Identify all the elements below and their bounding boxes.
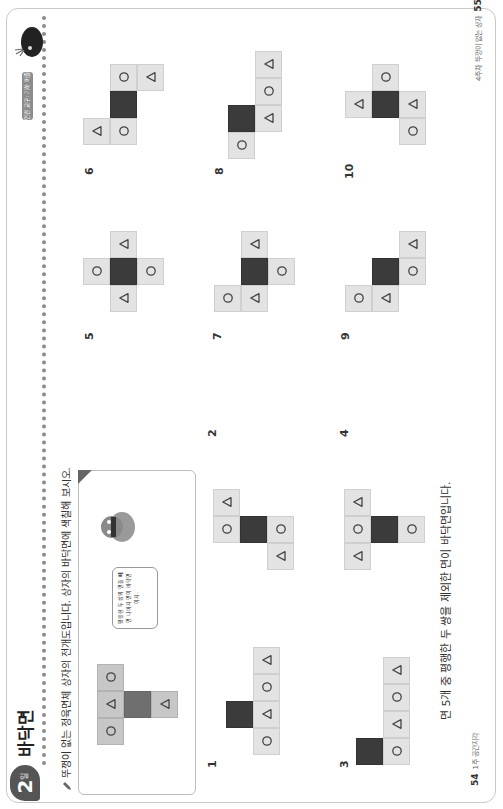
net-face[interactable] [241, 231, 268, 258]
net-face[interactable] [110, 231, 137, 258]
circle-icon [391, 746, 403, 758]
net-face[interactable] [213, 516, 240, 543]
net-face[interactable] [398, 516, 425, 543]
circle-icon [236, 140, 248, 152]
net-face[interactable] [97, 664, 124, 691]
triangle-icon [261, 709, 273, 721]
net-face[interactable] [83, 258, 110, 285]
net-face[interactable] [253, 674, 280, 701]
problem-number: 10 [343, 164, 356, 179]
circle-icon [222, 293, 234, 305]
dogear-corner [78, 470, 92, 484]
problem-number: 9 [339, 332, 352, 340]
circle-icon [221, 524, 233, 536]
speech-bubble: 평행한 두 쌍의 면을 빼면 나머지 면이 바닥면이지. [112, 567, 158, 629]
footer-section: 4주차 뚜껑이 없는 상자 [475, 16, 483, 81]
net-face-bottom[interactable] [356, 738, 383, 765]
problem-number: 6 [83, 167, 96, 175]
triangle-icon [261, 655, 273, 667]
net-face[interactable] [383, 657, 410, 684]
net-face-bottom[interactable] [226, 701, 253, 728]
net-face-bottom[interactable] [240, 516, 267, 543]
net-face[interactable] [214, 285, 241, 312]
net-face-bottom[interactable] [124, 691, 151, 718]
triangle-icon [353, 99, 365, 111]
triangle-icon [91, 126, 103, 138]
net-face[interactable] [151, 691, 178, 718]
footer-section: 1주 공간지각 [472, 733, 480, 770]
triangle-icon [249, 293, 261, 305]
net-face[interactable] [344, 543, 371, 570]
net-face[interactable] [345, 91, 372, 118]
net-face-bottom[interactable] [241, 258, 268, 285]
net-face[interactable] [253, 701, 280, 728]
net-face-bottom[interactable] [371, 516, 398, 543]
triangle-icon [391, 665, 403, 677]
footer-right: 4주차 뚜껑이 없는 상자55 [473, 0, 483, 81]
triangle-icon [380, 293, 392, 305]
triangle-icon [249, 239, 261, 251]
circle-icon [105, 672, 117, 684]
problem-number: 7 [211, 332, 224, 340]
net-face[interactable] [383, 684, 410, 711]
net-face-bottom[interactable] [110, 258, 137, 285]
net-face[interactable] [255, 78, 282, 105]
footer-left: 541주 공간지각 [470, 733, 480, 790]
instruction-text: 뚜껑이 없는 정육면체 상자의 전개도입니다. 상자의 바닥면에 색칠해 보시오… [61, 467, 72, 778]
net-face[interactable] [137, 258, 164, 285]
net-face[interactable] [97, 718, 124, 745]
circle-icon [407, 266, 419, 278]
page-title: 바닥면 [12, 709, 37, 757]
net-face[interactable] [267, 543, 294, 570]
circle-icon [407, 126, 419, 138]
triangle-icon [352, 497, 364, 509]
net-face[interactable] [228, 132, 255, 159]
net-face[interactable] [253, 647, 280, 674]
net-face[interactable] [110, 64, 137, 91]
net-face[interactable] [399, 258, 426, 285]
problem-number: 4 [338, 429, 351, 437]
circle-icon [391, 692, 403, 704]
net-face[interactable] [399, 118, 426, 145]
net-face[interactable] [399, 231, 426, 258]
triangle-icon [391, 719, 403, 731]
net-face[interactable] [253, 728, 280, 755]
net-face-bottom[interactable] [372, 258, 399, 285]
net-face[interactable] [110, 285, 137, 312]
circle-icon [91, 266, 103, 278]
triangle-icon [407, 239, 419, 251]
net-face-bottom[interactable] [372, 91, 399, 118]
net-face[interactable] [345, 285, 372, 312]
mascot-icon [14, 24, 44, 60]
triangle-icon [159, 699, 171, 711]
lesson-badge: 연관 교구: 기하 퍼즐 [22, 72, 33, 120]
net-face[interactable] [344, 516, 371, 543]
circle-icon [105, 726, 117, 738]
net-face[interactable] [255, 105, 282, 132]
net-face[interactable] [372, 285, 399, 312]
circle-icon [406, 524, 418, 536]
net-face-bottom[interactable] [110, 91, 137, 118]
net-face[interactable] [241, 285, 268, 312]
net-face[interactable] [137, 64, 164, 91]
net-face[interactable] [399, 91, 426, 118]
net-face[interactable] [97, 691, 124, 718]
net-face[interactable] [268, 258, 295, 285]
net-face[interactable] [213, 489, 240, 516]
page-number: 55 [473, 0, 483, 12]
problem-number: 8 [213, 167, 226, 175]
net-face[interactable] [383, 738, 410, 765]
triangle-icon [263, 59, 275, 71]
circle-icon [145, 266, 157, 278]
triangle-icon [352, 551, 364, 563]
net-face[interactable] [383, 711, 410, 738]
net-face[interactable] [110, 118, 137, 145]
net-face[interactable] [267, 516, 294, 543]
net-face[interactable] [255, 51, 282, 78]
net-face[interactable] [83, 118, 110, 145]
net-face[interactable] [372, 64, 399, 91]
net-face-bottom[interactable] [228, 105, 255, 132]
circle-icon [353, 293, 365, 305]
net-face[interactable] [344, 489, 371, 516]
circle-icon [118, 126, 130, 138]
